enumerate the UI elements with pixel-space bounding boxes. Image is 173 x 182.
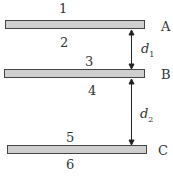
distance-arrows — [0, 0, 173, 182]
